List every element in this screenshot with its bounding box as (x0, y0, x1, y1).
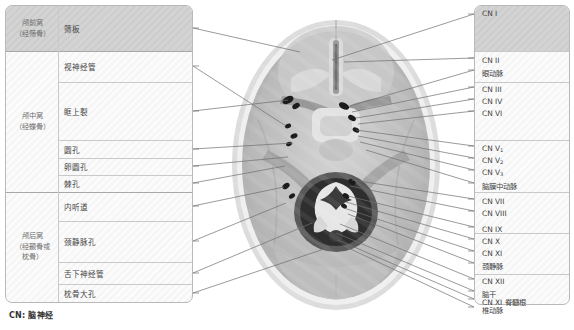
skull-base-foramina-figure: 筛板视神经管眶上裂圆孔卵圆孔棘孔内听道颈静脉孔舌下神经管枕骨大孔 颅前窝（经筛骨… (0, 0, 574, 330)
legend-item-label: CN IX (482, 225, 502, 234)
legend-item-label: CN III (482, 85, 502, 94)
foramen-name: 内听道 (64, 201, 88, 212)
foramen-name: 圆孔 (64, 144, 80, 155)
legend-item-subscript: 3 (500, 171, 503, 177)
foramen-name: 颈静脉孔 (64, 236, 96, 247)
fossa-group-label-line: 颅中窝 (15, 111, 50, 121)
fossa-group-label[interactable]: 颅后窝（经颞骨或枕骨） (6, 192, 58, 302)
table-row-divider (58, 140, 192, 141)
foramen-name: 卵圆孔 (64, 161, 88, 172)
foramen-name: 视神经管 (64, 61, 96, 72)
fossa-group-label-line: （经颞骨或 (15, 242, 50, 252)
legend-item-label: CN V (482, 156, 500, 165)
table-row[interactable]: 棘孔 (58, 175, 192, 192)
table-row[interactable]: 颈静脉孔 (58, 221, 192, 262)
legend-item[interactable]: CN IV (475, 96, 569, 107)
legend-item[interactable]: CN II (475, 55, 569, 66)
table-row-divider (58, 221, 192, 222)
legend-group-divider (475, 140, 569, 141)
foramen-name: 筛板 (64, 23, 80, 34)
legend-item-label: CN V (482, 144, 500, 153)
fossa-group-label[interactable]: 颅中窝（经蝶骨） (6, 51, 58, 192)
fossa-group-label-line: （经蝶骨） (15, 122, 50, 132)
legend-item[interactable]: CN I (475, 8, 569, 19)
legend-item-label: CN XI (482, 249, 502, 258)
table-row-divider (58, 284, 192, 285)
legend-item[interactable]: CN VIII (475, 208, 569, 219)
legend-item[interactable]: CN XI (475, 248, 569, 259)
fossa-group-label-line: （经筛骨） (15, 29, 50, 39)
footnote: CN: 脑神经 (9, 309, 53, 320)
table-row-divider (58, 262, 192, 263)
legend-group-divider (475, 192, 569, 193)
skull-base-ct-image (196, 0, 476, 330)
legend-item-label: CN VI (482, 109, 502, 118)
legend-item-label: CN II (482, 56, 499, 65)
fossa-group-label-line: 颅后窝 (15, 231, 50, 241)
table-row[interactable]: 枕骨大孔 (58, 284, 192, 302)
legend-item-label: 眼动脉 (482, 67, 503, 78)
structures-legend: CN ICN II眼动脉CN IIICN IVCN VICN V1CN V2CN… (474, 5, 570, 305)
fossa-group-label-line: 枕骨） (15, 252, 50, 262)
legend-group-divider (475, 51, 569, 52)
legend-item-label: CN V (482, 168, 500, 177)
table-row[interactable]: 内听道 (58, 192, 192, 221)
legend-item[interactable]: 颈静脉 (475, 260, 569, 271)
foramina-table: 筛板视神经管眶上裂圆孔卵圆孔棘孔内听道颈静脉孔舌下神经管枕骨大孔 颅前窝（经筛骨… (5, 5, 193, 303)
fossa-group-divider (6, 192, 192, 193)
legend-item-label: CN VIII (482, 209, 507, 218)
table-row-divider (58, 158, 192, 159)
table-row-divider (58, 82, 192, 83)
legend-item-label: CN X (482, 237, 500, 246)
legend-item[interactable]: 脑膜中动脉 (475, 180, 569, 191)
table-row[interactable]: 眶上裂 (58, 82, 192, 140)
legend-item-label: 脑膜中动脉 (482, 180, 517, 191)
legend-item[interactable]: CN XII (475, 276, 569, 287)
legend-item-label: CN I (482, 9, 497, 18)
table-column-divider (58, 6, 59, 302)
legend-item-label: 椎动脉 (482, 304, 503, 315)
legend-item[interactable]: CN VI (475, 108, 569, 119)
table-row[interactable]: 视神经管 (58, 51, 192, 82)
legend-item[interactable]: CN IX (475, 224, 569, 235)
foramen-name: 枕骨大孔 (64, 288, 96, 299)
legend-item-subscript: 1 (500, 147, 503, 153)
table-row[interactable]: 圆孔 (58, 140, 192, 158)
legend-item[interactable]: CN V2 (475, 155, 569, 166)
legend-item-label: CN VII (482, 197, 504, 206)
fossa-group-label[interactable]: 颅前窝（经筛骨） (6, 6, 58, 51)
fossa-group-divider (6, 51, 192, 52)
foramen-name: 棘孔 (64, 178, 80, 189)
legend-item-label: CN XII (482, 277, 504, 286)
legend-item[interactable]: CN V1 (475, 143, 569, 154)
legend-item[interactable]: CN V3 (475, 167, 569, 178)
legend-item[interactable]: CN VII (475, 196, 569, 207)
legend-item[interactable]: 眼动脉 (475, 67, 569, 78)
fossa-group-label-line: 颅前窝 (15, 18, 50, 28)
legend-group-divider (475, 82, 569, 83)
foramen-name: 眶上裂 (64, 106, 88, 117)
table-row[interactable]: 卵圆孔 (58, 158, 192, 175)
table-row[interactable]: 筛板 (58, 6, 192, 51)
legend-item-label: CN IV (482, 97, 502, 106)
legend-item[interactable]: CN III (475, 84, 569, 95)
table-row[interactable]: 舌下神经管 (58, 262, 192, 284)
legend-item[interactable]: 椎动脉 (475, 304, 569, 315)
legend-item-label: 颈静脉 (482, 260, 503, 271)
legend-group-divider (475, 274, 569, 275)
table-row-divider (58, 175, 192, 176)
legend-item-subscript: 2 (500, 159, 503, 165)
legend-item[interactable]: CN X (475, 236, 569, 247)
foramen-name: 舌下神经管 (64, 268, 104, 279)
